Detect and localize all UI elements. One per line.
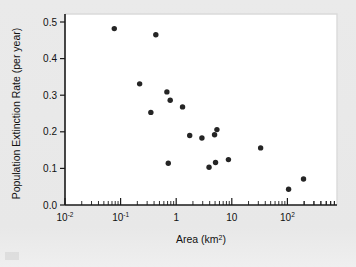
y-tick-label: 0.3	[43, 90, 57, 101]
y-tick-label: 0.4	[43, 53, 57, 64]
data-point	[206, 165, 211, 170]
data-point	[180, 104, 185, 109]
data-point	[148, 110, 153, 115]
data-point	[212, 132, 217, 137]
data-point	[137, 81, 142, 86]
x-tick-label: 10-2	[57, 211, 74, 223]
data-point	[213, 160, 218, 165]
y-tick-label: 0.0	[43, 200, 57, 211]
data-point	[153, 32, 158, 37]
data-point	[214, 127, 219, 132]
y-tick-label: 0.5	[43, 17, 57, 28]
y-tick-label: 0.2	[43, 126, 57, 137]
data-point	[258, 145, 263, 150]
data-point	[301, 176, 306, 181]
scatter-plot: 0.00.10.20.30.40.5 10-210-1110102 Area (…	[0, 0, 356, 267]
figure-container: 0.00.10.20.30.40.5 10-210-1110102 Area (…	[0, 0, 356, 267]
x-axis-label: Area (km2)	[176, 233, 226, 245]
data-point	[187, 133, 192, 138]
data-point	[286, 187, 291, 192]
data-point	[164, 89, 169, 94]
data-point	[199, 135, 204, 140]
x-tick-label: 102	[280, 211, 295, 223]
x-tick-label: 1	[173, 212, 179, 223]
x-tick-label: 10-1	[112, 211, 129, 223]
plot-area-background	[65, 14, 337, 205]
data-point	[226, 157, 231, 162]
y-axis: 0.00.10.20.30.40.5	[43, 14, 65, 211]
data-point	[112, 26, 117, 31]
x-tick-label: 10	[226, 212, 238, 223]
data-point	[166, 161, 171, 166]
y-axis-label: Population Extinction Rate (per year)	[10, 28, 22, 200]
y-tick-label: 0.1	[43, 163, 57, 174]
data-point	[168, 98, 173, 103]
page-artifact	[5, 252, 19, 260]
